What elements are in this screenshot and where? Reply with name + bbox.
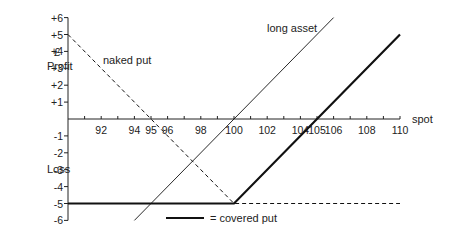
y-label-pound: £	[54, 46, 60, 58]
axes: 9294959698100102104105106108110+6+5+4+3+…	[51, 12, 409, 227]
annotation-naked-put: naked put	[103, 54, 151, 66]
x-tick-label: 96	[162, 124, 174, 136]
y-tick-label: +5	[51, 29, 63, 41]
payoff-chart: 9294959698100102104105106108110+6+5+4+3+…	[0, 0, 449, 237]
y-tick-label: -4	[54, 181, 63, 193]
x-tick-label: 102	[258, 124, 276, 136]
x-tick-label: 94	[129, 124, 141, 136]
x-tick-label: 108	[358, 124, 376, 136]
x-label-spot: spot	[412, 113, 433, 125]
legend-covered-put: = covered put	[210, 212, 277, 224]
x-tick-label: 110	[392, 124, 409, 136]
y-tick-label: -5	[54, 198, 63, 210]
x-tick-label: 106	[325, 124, 343, 136]
y-tick-label: -2	[54, 147, 63, 159]
y-label-profit: Profit	[47, 60, 73, 72]
y-label-loss: Loss	[47, 163, 71, 175]
y-tick-label: +2	[51, 79, 63, 91]
x-tick-label: 92	[95, 124, 107, 136]
y-tick-label: -1	[54, 130, 63, 142]
y-tick-label: +1	[51, 96, 63, 108]
annotation-long-asset: long asset	[267, 22, 317, 34]
y-tick-label: -6	[54, 214, 63, 226]
x-tick-label: 98	[195, 124, 207, 136]
x-tick-label: 95	[145, 124, 157, 136]
y-tick-label: +6	[51, 12, 63, 24]
